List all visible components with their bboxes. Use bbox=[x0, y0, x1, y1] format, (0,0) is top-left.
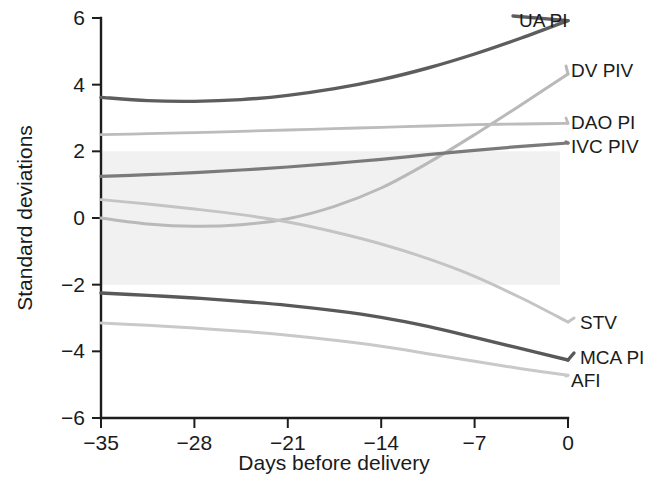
y-tick-label: 4 bbox=[73, 73, 85, 96]
x-axis-ticks bbox=[101, 418, 568, 428]
x-tick-label: 0 bbox=[562, 431, 574, 454]
y-tick-label: −4 bbox=[61, 339, 85, 362]
series-line-ua-pi bbox=[101, 21, 568, 102]
series-label-dv-piv: DV PIV bbox=[571, 60, 634, 81]
y-tick-label: −2 bbox=[61, 273, 85, 296]
x-tick-label: −28 bbox=[177, 431, 213, 454]
y-tick-label: 2 bbox=[73, 139, 85, 162]
x-tick-label: −35 bbox=[83, 431, 119, 454]
reference-band bbox=[101, 151, 560, 284]
x-tick-label: −7 bbox=[463, 431, 487, 454]
series-leader-line bbox=[568, 353, 574, 360]
series-label-afi: AFI bbox=[571, 370, 601, 391]
series-label-dao-pi: DAO PI bbox=[571, 112, 635, 133]
series-label-mca-pi: MCA PI bbox=[580, 347, 644, 368]
series-leader-line bbox=[566, 142, 568, 143]
x-axis-title: Days before delivery bbox=[238, 451, 430, 474]
y-axis-title: Standard deviations bbox=[13, 125, 36, 311]
series-label-ua-pi: UA PI bbox=[519, 10, 568, 31]
series-label-ivc-piv: IVC PIV bbox=[571, 136, 639, 157]
line-chart: 6420−2−4−6 −35−28−21−14−70 UA PIDV PIVDA… bbox=[0, 0, 650, 477]
y-tick-label: 0 bbox=[73, 206, 85, 229]
series-leader-line bbox=[568, 318, 574, 322]
series-line-afi bbox=[101, 323, 568, 375]
series-leader-line bbox=[566, 118, 568, 123]
series-label-stv: STV bbox=[580, 312, 617, 333]
y-tick-label: 6 bbox=[73, 6, 85, 29]
series-line-dao-pi bbox=[101, 123, 568, 134]
y-tick-label: −6 bbox=[61, 406, 85, 429]
series-leader-line bbox=[566, 66, 568, 74]
chart-figure: 6420−2−4−6 −35−28−21−14−70 UA PIDV PIVDA… bbox=[0, 0, 650, 477]
y-axis-tick-labels: 6420−2−4−6 bbox=[61, 6, 85, 429]
series-leader-line bbox=[566, 375, 568, 376]
